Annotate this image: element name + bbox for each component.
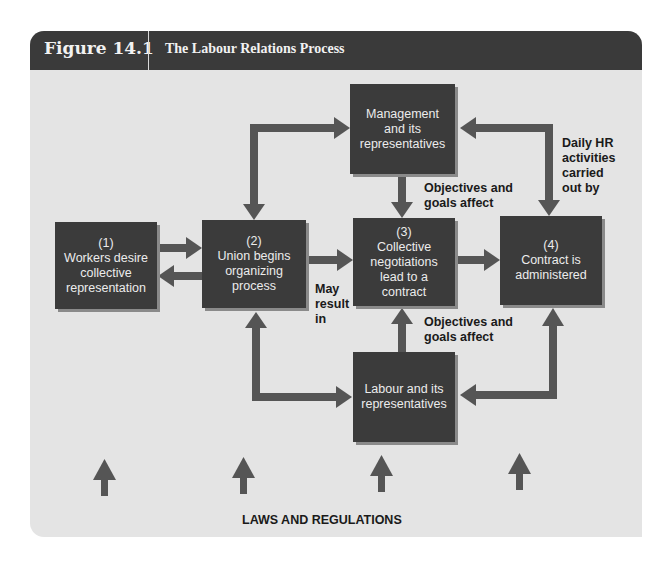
laws-arrow-2-icon xyxy=(232,457,255,494)
box-label: Contract is administered xyxy=(500,253,602,283)
box-label: Workers desire collective representation xyxy=(55,251,157,296)
arrow-union-management-elbow-icon xyxy=(243,117,350,220)
box-management: Management and its representatives xyxy=(350,84,455,174)
arrow-workers-to-union-icon xyxy=(160,237,202,259)
step-number: (2) xyxy=(246,234,261,249)
note-daily-hr-activities: Daily HR activities carried out by xyxy=(562,136,622,196)
box-contract-administered: (4) Contract is administered xyxy=(500,216,602,305)
box-union-organizing: (2) Union begins organizing process xyxy=(202,220,306,308)
arrow-negotiations-to-contract-icon xyxy=(458,249,500,271)
box-label: Labour and its representatives xyxy=(353,382,455,412)
box-collective-negotiations: (3) Collective negotiations lead to a co… xyxy=(353,218,455,306)
box-label: Collective negotiations lead to a contra… xyxy=(353,240,455,300)
step-number: (4) xyxy=(543,238,558,253)
laws-arrow-3-icon xyxy=(370,455,393,492)
arrow-labour-to-negotiations-icon xyxy=(391,308,413,352)
laws-arrow-1-icon xyxy=(93,459,116,496)
arrow-union-to-workers-icon xyxy=(158,265,202,287)
note-management-objectives: Objectives and goals affect xyxy=(424,181,524,211)
note-may-result-in: May result in xyxy=(315,282,349,327)
arrow-union-to-negotiations-icon xyxy=(309,249,353,271)
laws-arrow-4-icon xyxy=(508,453,531,490)
box-labour: Labour and its representatives xyxy=(353,352,455,442)
note-labour-objectives: Objectives and goals affect xyxy=(424,315,524,345)
box-workers-desire-representation: (1) Workers desire collective representa… xyxy=(55,222,157,309)
arrow-management-to-negotiations-icon xyxy=(391,176,413,218)
step-number: (1) xyxy=(98,236,113,251)
box-label: Union begins organizing process xyxy=(202,249,306,294)
box-label: Management and its representatives xyxy=(350,107,455,152)
laws-and-regulations-label: LAWS AND REGULATIONS xyxy=(0,513,672,527)
step-number: (3) xyxy=(396,225,411,240)
